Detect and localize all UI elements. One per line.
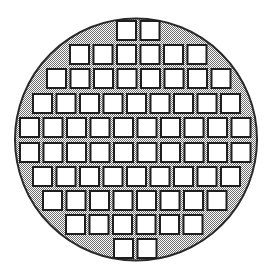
die [138, 239, 157, 258]
die [188, 69, 207, 88]
die [174, 167, 193, 186]
wafer-map-diagram [0, 0, 270, 277]
die [57, 167, 76, 186]
die [208, 118, 227, 137]
die [57, 94, 76, 113]
die [141, 69, 160, 88]
die [20, 118, 39, 137]
die [91, 143, 110, 162]
die [221, 167, 240, 186]
die [114, 239, 133, 258]
die [198, 94, 217, 113]
die [208, 191, 227, 210]
die [185, 143, 204, 162]
die [184, 191, 203, 210]
die [94, 69, 113, 88]
die [161, 191, 180, 210]
die [94, 45, 113, 64]
die [161, 143, 180, 162]
die [127, 94, 146, 113]
die [151, 167, 170, 186]
die [165, 69, 184, 88]
die [185, 118, 204, 137]
die [114, 191, 133, 210]
die [161, 118, 180, 137]
die [141, 21, 160, 40]
die [114, 143, 133, 162]
die [118, 69, 137, 88]
die [137, 191, 156, 210]
die [127, 167, 146, 186]
die [114, 118, 133, 137]
die [90, 191, 109, 210]
die [184, 215, 203, 234]
die [151, 94, 170, 113]
die [221, 94, 240, 113]
die [164, 45, 183, 64]
die [33, 167, 52, 186]
die [20, 143, 39, 162]
die [66, 215, 85, 234]
die [212, 69, 231, 88]
die [44, 143, 63, 162]
die [160, 215, 179, 234]
die [104, 94, 123, 113]
die [104, 167, 123, 186]
die [117, 45, 136, 64]
die [198, 167, 217, 186]
die [67, 191, 86, 210]
die [70, 45, 89, 64]
die [80, 94, 99, 113]
die [138, 118, 157, 137]
die [90, 215, 109, 234]
die [71, 69, 90, 88]
die [44, 118, 63, 137]
die [174, 94, 193, 113]
die [67, 118, 86, 137]
die [138, 143, 157, 162]
die [232, 143, 251, 162]
die [113, 215, 132, 234]
die [188, 45, 207, 64]
die [67, 143, 86, 162]
die [33, 94, 52, 113]
die [208, 143, 227, 162]
die [80, 167, 99, 186]
die [91, 118, 110, 137]
die [141, 45, 160, 64]
die [43, 191, 62, 210]
die [137, 215, 156, 234]
die [47, 69, 66, 88]
die [117, 21, 136, 40]
die [232, 118, 251, 137]
